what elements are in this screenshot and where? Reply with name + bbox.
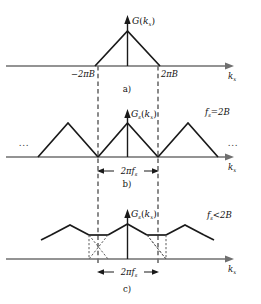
panel-a-x-axis-label: kx (228, 71, 236, 82)
panel-c-x-axis-label: kx (228, 264, 236, 275)
panel-a-fn-paren-close: ) (151, 15, 155, 26)
panel-c-spectrum-far-right-tail (204, 235, 214, 240)
panel-a-function-label: G(kx) (132, 15, 155, 27)
panel-a: G(kx) −2πB 2πB kx a) (6, 15, 236, 94)
panel-b-x-axis-arrow (225, 154, 234, 161)
signal-spectrum-figure: G(kx) −2πB 2πB kx a) ... (0, 0, 261, 304)
panel-b-measure-sub: s (135, 171, 138, 177)
panel-b: ... ... Gs(kx) fs=2B 2πfs (6, 107, 238, 189)
panel-b-function-label: Gs(kx) (131, 108, 157, 120)
panel-c-measure: 2πfs (97, 266, 159, 278)
panel-c-function-label: Gs(kx) (131, 208, 157, 220)
panel-c-fn-paren-close: ) (153, 208, 157, 219)
panel-b-condition-label: fs=2B (204, 107, 230, 118)
panel-b-measure: 2πfs (97, 165, 159, 177)
panel-c-x-axis-label-sub: x (233, 269, 236, 275)
panel-b-fn-paren-close: ) (153, 108, 157, 119)
panel-b-left-ellipsis: ... (19, 138, 29, 148)
panel-a-y-axis-arrow (124, 15, 130, 24)
panel-c-fn-name: G (131, 208, 138, 219)
panel-a-tick-left-label: −2πB (71, 69, 95, 79)
panel-c-label: c) (123, 284, 131, 294)
panel-c-spectrum-replica-left (51, 225, 89, 235)
panel-b-x-axis-label-sub: x (233, 167, 236, 173)
panel-c-x-axis-arrow (225, 256, 234, 263)
figure-canvas: G(kx) −2πB 2πB kx a) ... (0, 0, 261, 304)
panel-b-spectrum-replica-left (38, 123, 98, 157)
panel-b-spectrum-replica-right (158, 123, 218, 157)
panel-c-y-axis-arrow (124, 209, 130, 218)
panel-a-tick-right-label: 2πB (160, 69, 178, 79)
panel-c-condition-label: fs<2B (206, 210, 232, 221)
panel-b-condition-rest: =2B (211, 107, 230, 117)
panel-b-x-axis-label: kx (228, 162, 236, 173)
panel-b-label: b) (123, 179, 132, 189)
panel-c-measure-sub: s (135, 272, 138, 278)
panel-a-x-axis-arrow (225, 63, 234, 70)
panel-c-condition-rest: <2B (213, 210, 232, 220)
panel-a-x-axis-label-sub: x (233, 76, 236, 82)
panel-c-measure-arrow-right (152, 269, 159, 275)
panel-a-fn-name: G (132, 15, 139, 26)
panel-a-label: a) (123, 84, 131, 94)
panel-c-spectrum-far-left-tail (41, 235, 51, 240)
panel-c-spectrum-replica-right-tail (147, 235, 166, 259)
panel-b-fn-name: G (131, 108, 138, 119)
panel-b-right-ellipsis: ... (228, 138, 238, 148)
panel-c-spectrum-replica-right (166, 225, 204, 235)
panel-c: Gs(kx) fs<2B 2πfs kx c) (6, 208, 236, 294)
panel-c-measure-arrow-left (97, 269, 104, 275)
panel-b-y-axis-arrow (124, 109, 130, 118)
